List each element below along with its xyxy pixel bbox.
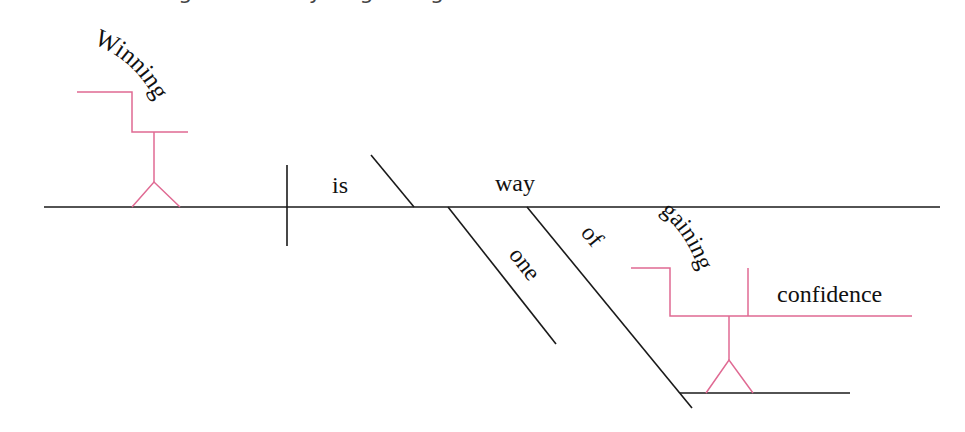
word-confidence: confidence: [777, 281, 882, 307]
sentence-diagram: Winning is one way of gaining confidence…: [0, 0, 965, 432]
word-one: one: [504, 242, 546, 285]
word-is: is: [332, 172, 348, 198]
gerund-winning-pedestal: [77, 92, 188, 207]
predicate-complement-slash: [371, 155, 414, 207]
word-of: of: [576, 220, 609, 252]
caption-text: Winning is one way of gaining confidence…: [100, 0, 585, 4]
modifier-one-slant: [448, 207, 556, 344]
word-way: way: [495, 170, 535, 196]
preposition-of-slant: [527, 207, 692, 408]
diagram-canvas: Winning is way one of gaining confidence: [0, 0, 965, 432]
clipped-caption: Winning is one way of gaining confidence…: [0, 0, 965, 6]
